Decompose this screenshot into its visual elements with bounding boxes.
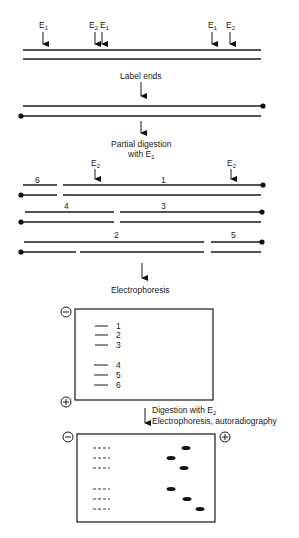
svg-text:2: 2 (114, 230, 119, 240)
svg-text:E1: E1 (100, 20, 110, 31)
svg-text:5: 5 (116, 370, 121, 380)
gel-1: 1 2 3 4 5 6 (61, 307, 213, 407)
step-label-ends: Label ends (120, 71, 162, 81)
step-digestion-e2: Digestion with E2 (152, 405, 217, 416)
site-e1-a: E1 (39, 20, 49, 44)
step-partial-digestion-enzyme: with E1 (127, 149, 155, 160)
cathode-minus-icon (63, 432, 73, 442)
svg-text:4: 4 (64, 201, 69, 211)
site-e1-b: E1 (100, 20, 110, 44)
step-autoradiography: Electrophoresis, autoradiography (152, 416, 277, 426)
svg-text:E1: E1 (39, 20, 49, 31)
site-e2-b: E2 (226, 20, 236, 44)
svg-text:E2: E2 (227, 158, 237, 169)
svg-text:6: 6 (116, 380, 121, 390)
svg-text:1: 1 (161, 175, 166, 185)
restriction-mapping-diagram: E1 E2 E1 E1 E2 Label ends Partial digest… (0, 0, 299, 538)
anode-plus-icon (220, 432, 230, 442)
site-e1-c: E1 (208, 20, 218, 44)
svg-text:E2: E2 (89, 20, 99, 31)
svg-text:E1: E1 (208, 20, 218, 31)
site-e2-a: E2 (89, 20, 99, 44)
fragment-group-2-5 (18, 239, 264, 254)
svg-text:6: 6 (35, 175, 40, 185)
cathode-minus-icon (61, 307, 71, 317)
svg-text:E2: E2 (91, 158, 101, 169)
anode-plus-icon (61, 397, 71, 407)
fragment-group-4-3 (18, 209, 264, 224)
svg-text:2: 2 (116, 330, 121, 340)
step-partial-digestion: Partial digestion (111, 139, 172, 149)
enzyme-site-markers: E1 E2 E1 E1 E2 (39, 20, 236, 44)
end-labeled-dna-duplex (18, 103, 265, 118)
unlabeled-dna-duplex (23, 50, 261, 59)
fragment-group-6-1 (18, 182, 265, 197)
gel-2-labeled-spots (167, 446, 205, 511)
svg-text:5: 5 (231, 230, 236, 240)
svg-text:3: 3 (161, 201, 166, 211)
svg-text:3: 3 (116, 340, 121, 350)
step-electrophoresis: Electrophoresis (111, 285, 170, 295)
svg-text:4: 4 (116, 360, 121, 370)
svg-text:E2: E2 (226, 20, 236, 31)
gel-2-reference-dashes (93, 448, 110, 509)
gel-1-bands: 1 2 3 4 5 6 (94, 321, 121, 390)
gel-2-autoradiograph (63, 432, 230, 522)
